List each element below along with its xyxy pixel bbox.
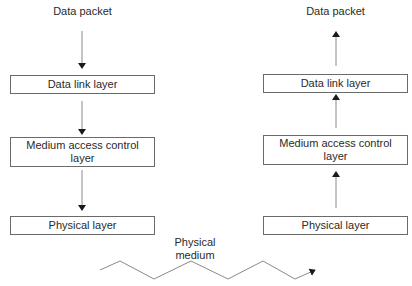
left-data-link-layer-box: Data link layer [10, 75, 155, 94]
physical-medium-label-line1: Physical [165, 236, 225, 249]
physical-medium-wave [100, 261, 313, 279]
right-physical-layer-box: Physical layer [263, 216, 408, 235]
left-mac-layer-box: Medium access control layer [10, 137, 155, 167]
right-data-packet-label: Data packet [298, 5, 373, 18]
physical-medium-label: Physical medium [165, 236, 225, 262]
right-data-link-layer-box: Data link layer [263, 74, 408, 93]
left-physical-layer-box: Physical layer [10, 216, 155, 235]
right-mac-layer-box: Medium access control layer [263, 135, 408, 165]
physical-medium-label-line2: medium [165, 249, 225, 262]
left-data-packet-label: Data packet [45, 5, 120, 18]
